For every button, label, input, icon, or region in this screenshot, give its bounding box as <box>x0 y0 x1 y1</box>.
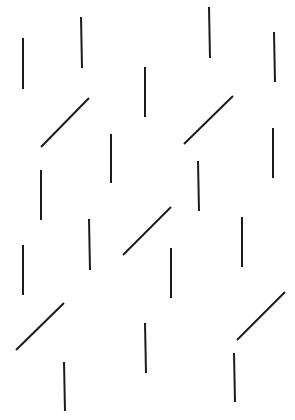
vertical-line-segment <box>89 219 90 270</box>
line-segment-stimulus <box>0 0 295 420</box>
vertical-line-segment <box>234 353 235 402</box>
vertical-line-segment <box>81 17 82 68</box>
vertical-line-segment <box>209 7 210 58</box>
vertical-line-segment <box>145 323 146 373</box>
vertical-line-segment <box>198 161 199 211</box>
vertical-line-segment <box>274 32 275 82</box>
background <box>0 0 295 420</box>
vertical-line-segment <box>64 362 65 411</box>
